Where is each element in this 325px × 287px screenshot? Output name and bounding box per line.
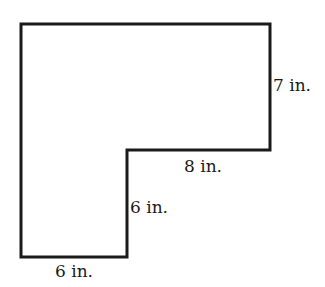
label-right-side-7in: 7 in. — [273, 77, 311, 94]
label-inner-horizontal-8in: 8 in. — [184, 158, 222, 175]
label-inner-vertical-6in: 6 in. — [130, 199, 168, 216]
label-bottom-6in: 6 in. — [55, 263, 93, 280]
l-shape-diagram: 7 in. 8 in. 6 in. 6 in. — [0, 0, 325, 287]
l-shape-polygon — [21, 24, 270, 257]
l-shape-outline — [0, 0, 325, 287]
